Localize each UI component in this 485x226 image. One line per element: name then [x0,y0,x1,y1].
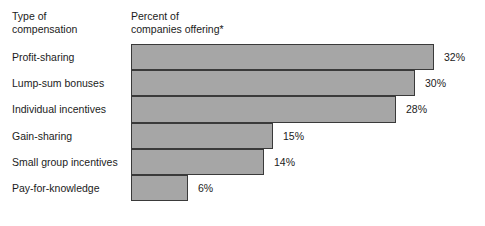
bar-value-label: 15% [283,123,304,149]
bar[interactable] [131,175,188,201]
bar-row: 30% [131,70,479,96]
category-label: Small group incentives [12,149,128,175]
bar-row: 14% [131,149,479,175]
bar-row: 28% [131,96,479,122]
chart-figure: Type of compensation Percent of companie… [0,0,485,226]
category-label: Profit-sharing [12,44,128,70]
category-label: Individual incentives [12,96,128,122]
bar[interactable] [131,44,434,70]
category-column-header: Type of compensation [12,10,77,36]
bar-row: 32% [131,44,479,70]
plot-area: 32%30%28%15%14%6% [131,44,479,208]
bar[interactable] [131,96,396,122]
bar-value-label: 28% [406,96,427,122]
bar[interactable] [131,149,264,175]
bar[interactable] [131,123,273,149]
category-label: Pay-for-knowledge [12,175,128,201]
bar[interactable] [131,70,415,96]
bar-value-label: 30% [425,70,446,96]
bar-value-label: 32% [444,44,465,70]
category-axis-labels: Profit-sharingLump-sum bonusesIndividual… [12,44,128,201]
bar-row: 6% [131,175,479,201]
value-column-header: Percent of companies offering* [131,10,224,36]
bar-row: 15% [131,123,479,149]
category-label: Gain-sharing [12,123,128,149]
bar-value-label: 6% [198,175,213,201]
category-label: Lump-sum bonuses [12,70,128,96]
bar-value-label: 14% [274,149,295,175]
